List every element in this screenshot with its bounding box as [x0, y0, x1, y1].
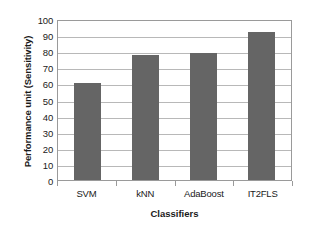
y-axis-tick-label: 90	[20, 31, 53, 42]
x-axis-category-label: kNN	[116, 188, 175, 199]
y-axis-tick-label: 60	[20, 79, 53, 90]
x-axis-tickmark	[57, 181, 58, 186]
y-axis-tick-label: 100	[20, 15, 53, 26]
x-axis-tickmark	[116, 181, 117, 186]
x-axis-category-labels: SVMkNNAdaBoostIT2FLS	[57, 188, 292, 199]
bar-svm[interactable]	[74, 83, 101, 180]
bar-slot	[116, 21, 174, 180]
bar-slot	[233, 21, 291, 180]
x-axis-tickmark	[233, 181, 234, 186]
bar-slot	[58, 21, 116, 180]
x-axis-tickmark	[175, 181, 176, 186]
y-axis-tick-label: 0	[20, 176, 53, 187]
x-axis-category-label: AdaBoost	[175, 188, 234, 199]
bar-series	[58, 21, 291, 180]
y-axis-tick-label: 30	[20, 127, 53, 138]
y-axis-tick-label: 10	[20, 159, 53, 170]
y-axis-tick-labels: 1009080706050403020100	[20, 20, 53, 181]
bar-adaboost[interactable]	[190, 53, 217, 180]
bar-slot	[175, 21, 233, 180]
y-axis-tick-label: 70	[20, 63, 53, 74]
y-axis-tick-label: 50	[20, 95, 53, 106]
bar-it2fls[interactable]	[248, 32, 275, 180]
x-axis-title: Classifiers	[57, 208, 292, 219]
x-axis-category-label: IT2FLS	[233, 188, 292, 199]
bar-chart: Performance unit (Sensitivity) 100908070…	[0, 0, 314, 237]
plot-area	[57, 20, 292, 181]
y-axis-tick-label: 80	[20, 47, 53, 58]
x-axis-category-label: SVM	[57, 188, 116, 199]
y-axis-tick-label: 40	[20, 111, 53, 122]
bar-knn[interactable]	[132, 55, 159, 180]
x-axis-tickmarks	[57, 181, 292, 186]
x-axis-tickmark	[292, 181, 293, 186]
y-axis-tick-label: 20	[20, 143, 53, 154]
